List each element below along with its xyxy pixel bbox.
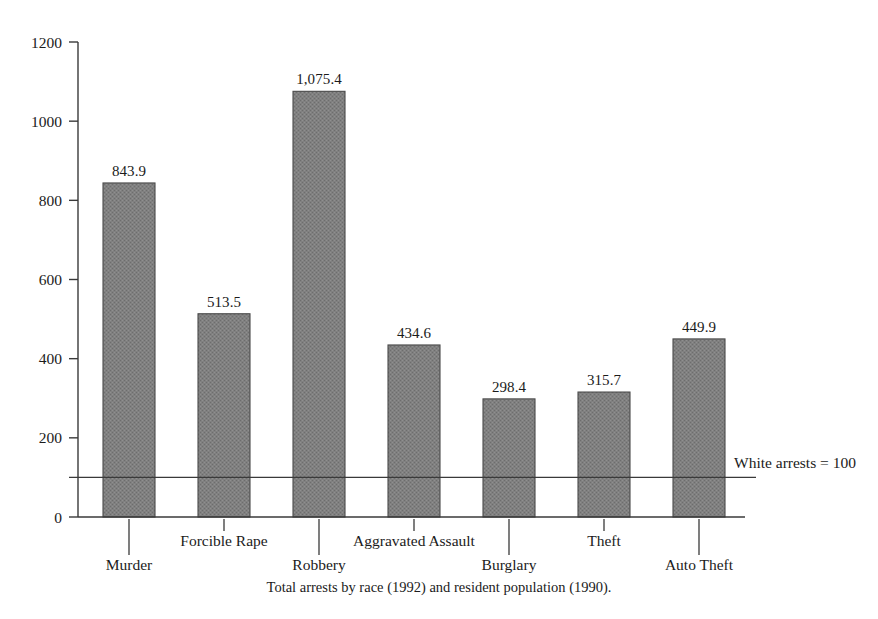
bar — [388, 345, 440, 517]
x-axis-category-label: Auto Theft — [665, 556, 734, 573]
bar — [103, 183, 155, 517]
chart-caption: Total arrests by race (1992) and residen… — [267, 579, 612, 596]
bar-value-label: 843.9 — [112, 163, 146, 179]
y-axis-tick-label: 0 — [54, 509, 62, 526]
bar-value-label: 449.9 — [682, 319, 716, 335]
chart-container: 020040060080010001200 843.9513.51,075.44… — [0, 0, 878, 619]
x-axis-category-label: Burglary — [482, 556, 537, 573]
y-axis: 020040060080010001200 — [31, 34, 78, 526]
category-labels-group: MurderForcible RapeRobberyAggravated Ass… — [106, 519, 734, 573]
bar-value-label: 513.5 — [207, 294, 241, 310]
bar — [483, 399, 535, 517]
bar-value-label: 298.4 — [492, 379, 527, 395]
bar — [673, 339, 725, 517]
bar — [293, 91, 345, 517]
x-axis-category-label: Forcible Rape — [180, 532, 267, 549]
x-axis-category-label: Robbery — [292, 556, 346, 573]
x-axis-category-label: Aggravated Assault — [353, 532, 476, 549]
y-axis-tick-label: 400 — [39, 350, 63, 367]
bar-value-label: 434.6 — [397, 325, 432, 341]
x-axis-category-label: Theft — [587, 532, 621, 549]
bar-value-label: 315.7 — [587, 372, 622, 388]
bar — [198, 314, 250, 517]
bar — [578, 392, 630, 517]
reference-line-label: White arrests = 100 — [734, 454, 856, 471]
y-axis-tick-label: 1000 — [31, 113, 62, 130]
bar-value-label: 1,075.4 — [296, 71, 342, 87]
caption-label: Total arrests by race (1992) and residen… — [267, 579, 612, 596]
y-axis-tick-label: 1200 — [31, 34, 62, 51]
y-axis-tick-label: 200 — [39, 429, 63, 446]
x-axis-category-label: Murder — [106, 556, 153, 573]
bars-group: 843.9513.51,075.4434.6298.4315.7449.9 — [103, 71, 725, 517]
y-axis-tick-label: 600 — [39, 271, 63, 288]
bar-chart: 020040060080010001200 843.9513.51,075.44… — [0, 0, 878, 619]
y-axis-tick-label: 800 — [39, 192, 63, 209]
reference-line-group: White arrests = 100 — [69, 454, 856, 477]
